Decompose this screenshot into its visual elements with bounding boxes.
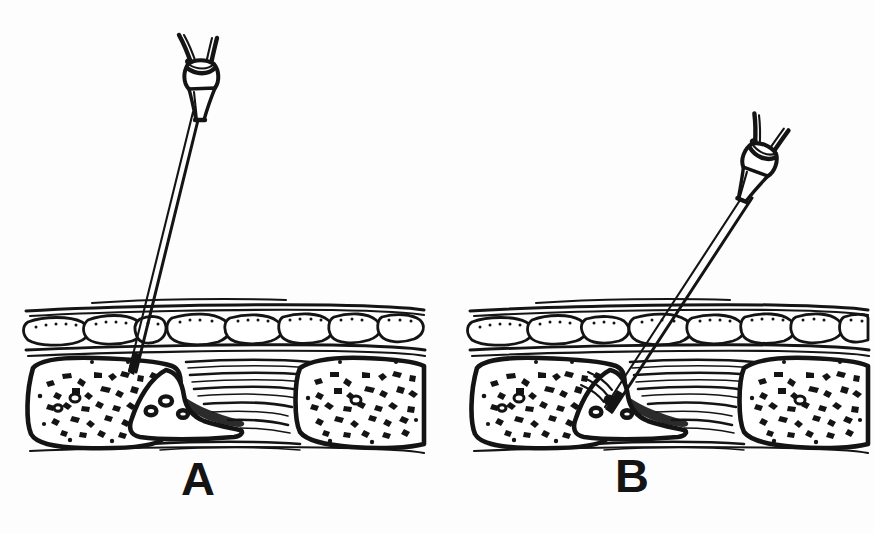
fascia-a bbox=[26, 345, 425, 356]
subcutaneous-fat-a bbox=[24, 314, 424, 345]
fascia-b bbox=[470, 345, 869, 356]
medical-illustration-figure: A B bbox=[0, 0, 874, 534]
tissue-block-a bbox=[24, 299, 426, 453]
bone-right-a bbox=[296, 358, 425, 448]
panel-a bbox=[24, 35, 426, 453]
panel-b bbox=[468, 113, 870, 453]
bone-right-b bbox=[740, 358, 869, 448]
illustration-canvas bbox=[0, 0, 874, 534]
subcutaneous-fat-b bbox=[468, 314, 869, 345]
needle-hub-b bbox=[723, 113, 791, 207]
panel-label-b: B bbox=[615, 452, 649, 499]
needle-hub-a bbox=[179, 35, 218, 120]
panel-label-a: A bbox=[181, 455, 215, 502]
tissue-block-b bbox=[468, 299, 870, 453]
